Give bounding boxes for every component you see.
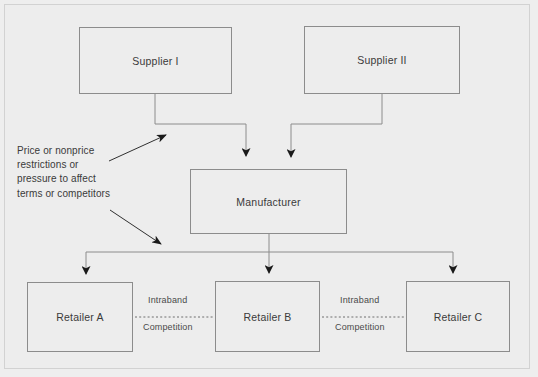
node-supplier-2[interactable]: Supplier II (304, 26, 460, 94)
annotation-line-3: pressure to affect (17, 172, 149, 186)
node-supplier-1[interactable]: Supplier I (79, 27, 232, 94)
annotation-line-4: terms or competitors (17, 187, 149, 201)
edge-label-intraband-bc: Intraband (340, 295, 379, 305)
node-manufacturer[interactable]: Manufacturer (190, 169, 347, 234)
node-supplier-2-label: Supplier II (357, 54, 406, 66)
node-retailer-b-label: Retailer B (243, 311, 291, 323)
edge-label-intraband-ab: Intraband (148, 295, 187, 305)
node-retailer-a-label: Retailer A (56, 311, 104, 323)
node-retailer-c-label: Retailer C (434, 311, 483, 323)
node-manufacturer-label: Manufacturer (236, 196, 300, 208)
node-retailer-a[interactable]: Retailer A (27, 282, 133, 352)
annotation-restriction-note: Price or nonprice restrictions or pressu… (17, 144, 149, 201)
edge-label-competition-ab: Competition (143, 322, 193, 332)
node-supplier-1-label: Supplier I (132, 55, 178, 67)
diagram-canvas: Supplier I Supplier II Manufacturer Reta… (0, 0, 538, 377)
node-retailer-c[interactable]: Retailer C (406, 281, 510, 352)
node-retailer-b[interactable]: Retailer B (215, 281, 320, 352)
annotation-line-1: Price or nonprice (17, 144, 149, 158)
edge-label-competition-bc: Competition (335, 322, 385, 332)
annotation-line-2: restrictions or (17, 158, 149, 172)
